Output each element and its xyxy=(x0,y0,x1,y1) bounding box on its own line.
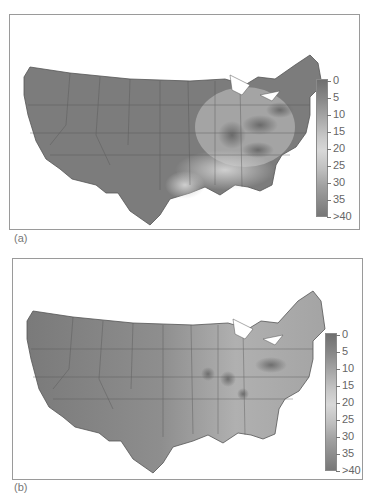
tick-label: 20 xyxy=(327,143,345,154)
panel-caption-a: (a) xyxy=(14,232,27,244)
map-panel-b: 0 5 10 15 20 25 30 35 >40 xyxy=(12,258,363,480)
panel-caption-b: (b) xyxy=(14,481,27,493)
tick-label: >40 xyxy=(336,465,361,476)
tick-label: 15 xyxy=(327,126,345,137)
tick-label: 5 xyxy=(336,346,348,357)
color-scale-legend-b: 0 5 10 15 20 25 30 35 >40 xyxy=(325,329,363,479)
map-panel-a: 0 5 10 15 20 25 30 35 >40 xyxy=(9,14,360,230)
tick-label: 15 xyxy=(336,380,354,391)
tick-label: 35 xyxy=(336,448,354,459)
tick-label: 30 xyxy=(336,431,354,442)
tick-label: 25 xyxy=(327,160,345,171)
tick-label: 0 xyxy=(336,329,348,340)
tick-label: 30 xyxy=(327,177,345,188)
color-scale-legend-a: 0 5 10 15 20 25 30 35 >40 xyxy=(316,75,360,225)
us-outline-b xyxy=(27,291,325,473)
tick-label: 5 xyxy=(327,92,339,103)
tick-label: >40 xyxy=(327,211,352,222)
tick-label: 10 xyxy=(336,363,354,374)
us-map-a xyxy=(10,15,359,229)
tick-label: 0 xyxy=(327,75,339,86)
tick-label: 10 xyxy=(327,109,345,120)
tick-label: 20 xyxy=(336,397,354,408)
us-map-b xyxy=(13,259,362,479)
tick-label: 35 xyxy=(327,194,345,205)
tick-label: 25 xyxy=(336,414,354,425)
